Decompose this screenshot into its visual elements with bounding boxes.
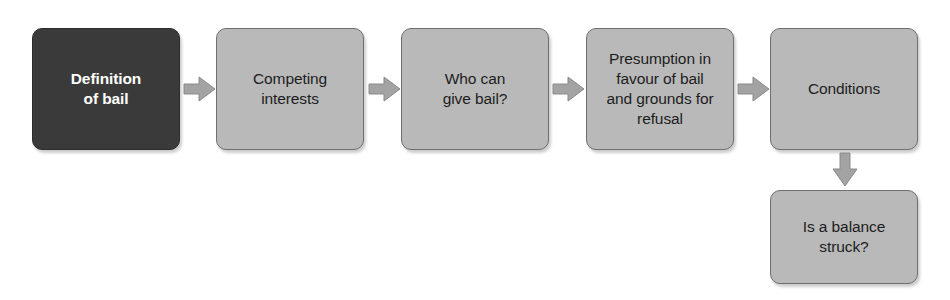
arrow-right-icon-presumption-to-conditions	[738, 74, 770, 104]
flow-node-label: Who can give bail?	[437, 69, 514, 109]
arrow-right-icon-competing-to-who	[369, 74, 401, 104]
flow-node-presumption-in-favour-of-bail[interactable]: Presumption in favour of bail and ground…	[586, 28, 734, 150]
arrow-down-icon-conditions-to-balance	[830, 153, 860, 187]
flow-node-conditions[interactable]: Conditions	[770, 28, 918, 150]
flowchart-diagram: Definition of bail Competing interests W…	[0, 0, 950, 300]
flow-node-label: Presumption in favour of bail and ground…	[600, 49, 719, 130]
flow-node-competing-interests[interactable]: Competing interests	[216, 28, 364, 150]
flow-node-label: Conditions	[802, 79, 886, 99]
flow-node-definition-of-bail[interactable]: Definition of bail	[32, 28, 180, 150]
flow-node-who-can-give-bail[interactable]: Who can give bail?	[401, 28, 549, 150]
arrow-right-icon-who-to-presumption	[553, 74, 585, 104]
arrow-right-icon-definition-to-competing	[184, 74, 216, 104]
flow-node-is-a-balance-struck[interactable]: Is a balance struck?	[770, 190, 918, 284]
flow-node-label: Definition of bail	[65, 69, 147, 109]
flow-node-label: Competing interests	[247, 69, 333, 109]
flow-node-label: Is a balance struck?	[797, 217, 891, 257]
